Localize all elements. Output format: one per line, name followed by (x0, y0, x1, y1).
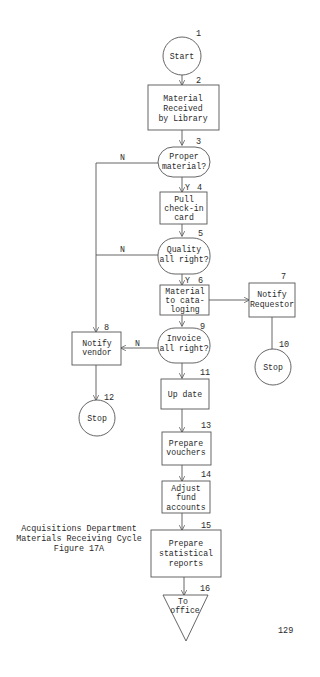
node-number: 2 (196, 76, 201, 86)
node-start: Start 1 (163, 29, 201, 75)
node-label: loging (170, 305, 200, 314)
node-notify-requestor: Notify Requestor 7 (249, 272, 295, 317)
node-label: fund (176, 493, 196, 502)
node-number: 5 (198, 229, 203, 239)
node-pull-check-in-card: Pull check-in card 4 (160, 183, 207, 224)
node-prepare-vouchers: Prepare vouchers 13 (162, 421, 211, 465)
node-label: vouchers (166, 448, 205, 457)
edge-label-y5: Y (185, 276, 190, 285)
node-label: all right? (159, 255, 208, 264)
edge-label-y3: Y (185, 183, 190, 192)
node-label: vendor (82, 348, 112, 357)
node-label: Up date (168, 390, 202, 399)
caption-line: Figure 17A (54, 544, 105, 554)
node-number: 14 (201, 470, 211, 480)
node-label: Stop (87, 414, 107, 423)
node-label: Notify (257, 290, 287, 299)
node-label: Material (163, 94, 202, 103)
node-label: Stop (263, 363, 283, 372)
figure-caption: Acquisitions Department Materials Receiv… (16, 524, 142, 554)
node-number: 4 (197, 183, 202, 193)
page-number: 129 (278, 626, 293, 636)
caption-line: Materials Receiving Cycle (16, 534, 142, 544)
node-label: To (178, 597, 188, 606)
edge-label-n3: N (120, 153, 125, 162)
node-number: 8 (104, 323, 109, 333)
node-label: office (170, 606, 200, 615)
node-label: Requestor (250, 300, 294, 309)
node-stop-requestor: Stop 10 (255, 340, 291, 385)
node-label: accounts (166, 503, 205, 512)
node-number: 11 (200, 368, 210, 378)
node-update: Up date 11 (161, 368, 210, 409)
edge-label-n5: N (120, 245, 125, 254)
node-number: 12 (104, 393, 114, 403)
caption-line: Acquisitions Department (21, 524, 137, 534)
node-proper-material-decision: Proper material? 3 (158, 137, 210, 177)
node-label: Notify (82, 339, 112, 348)
node-label: to cata- (165, 296, 204, 305)
node-number: 16 (200, 584, 210, 594)
node-number: 7 (281, 272, 286, 282)
node-material-received: Material Received by Library 2 (148, 76, 219, 130)
node-invoice-decision: Invoice all right? 9 (158, 322, 210, 363)
node-number: 3 (196, 137, 201, 147)
node-label: Pull (174, 195, 194, 204)
edge-3-8 (96, 163, 158, 332)
node-label: Prepare (169, 539, 203, 548)
node-number: 9 (200, 322, 205, 332)
node-label: Quality (167, 245, 201, 254)
flowchart-canvas: N Y N Y N Start 1 Material Received by L… (0, 0, 320, 677)
node-number: 1 (196, 29, 201, 39)
node-label: reports (169, 559, 203, 568)
node-label: statistical (159, 549, 213, 558)
node-label: Start (170, 52, 195, 61)
node-to-office: To office 16 (163, 584, 210, 641)
node-label: check-in (164, 204, 203, 213)
node-label: Prepare (169, 439, 203, 448)
node-label: Received (163, 104, 202, 113)
node-notify-vendor: Notify vendor 8 (72, 323, 121, 365)
node-label: material? (162, 162, 206, 171)
node-number: 15 (201, 521, 211, 531)
node-adjust-fund-accounts: Adjust fund accounts 14 (162, 470, 211, 513)
node-prepare-statistical-reports: Prepare statistical reports 15 (151, 521, 221, 577)
node-label: by Library (158, 114, 207, 123)
node-label: Adjust (171, 484, 201, 493)
node-label: Proper (169, 152, 199, 161)
node-stop-vendor: Stop 12 (79, 393, 115, 436)
node-label: Material (165, 287, 204, 296)
edge-label-n9: N (135, 339, 140, 348)
node-quality-decision: Quality all right? 5 (158, 229, 210, 274)
node-number: 10 (279, 340, 289, 350)
node-number: 6 (198, 276, 203, 286)
node-number: 13 (201, 421, 211, 431)
node-label: all right? (159, 344, 208, 353)
node-label: Invoice (167, 334, 201, 343)
node-label: card (174, 213, 194, 222)
